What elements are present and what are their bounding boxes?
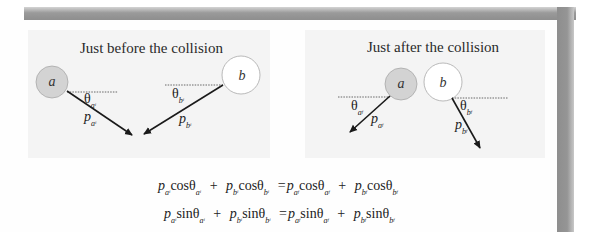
equation-x-momentum: paicosθai + pbicosθbi =pafcosθaf + pbfco… — [158, 178, 398, 194]
p-b-after-label: pbf — [455, 117, 467, 133]
before-title: Just before the collision — [80, 40, 223, 57]
theta-a-after-label: θaf — [351, 98, 363, 114]
ball-b-before-label: b — [239, 68, 246, 84]
p-a-before-label: pai — [84, 109, 96, 125]
after-title: Just after the collision — [367, 39, 499, 56]
equation-y-momentum: paisinθai + pbisinθbi =pafsinθaf + pbfsi… — [164, 206, 395, 222]
p-b-before-label: pbi — [179, 111, 191, 127]
ball-b-after-label: b — [440, 75, 447, 91]
theta-a-before-label: θai — [84, 91, 96, 107]
p-a-after-label: paf — [371, 111, 383, 127]
momentum-arrow-a-before — [67, 91, 132, 135]
before-diagram — [36, 56, 260, 135]
after-diagram — [338, 63, 508, 148]
theta-b-before-label: θbi — [172, 86, 184, 102]
ball-a-before-label: a — [49, 74, 56, 90]
ball-a-after-label: a — [398, 76, 405, 92]
theta-b-after-label: θbf — [460, 98, 472, 114]
